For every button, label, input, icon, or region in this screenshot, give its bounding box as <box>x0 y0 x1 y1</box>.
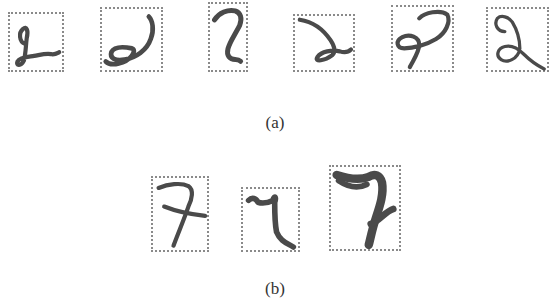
subfigure-a-caption: (a) <box>266 113 285 133</box>
digit-sample-b3 <box>329 165 401 251</box>
handwritten-digit-icon <box>295 16 353 70</box>
handwritten-digit-icon <box>153 178 207 250</box>
handwritten-digit-icon <box>243 189 298 250</box>
handwritten-digit-icon <box>331 167 399 249</box>
digit-sample-a2 <box>100 7 163 72</box>
digit-sample-a3 <box>208 2 248 72</box>
digit-sample-a5 <box>391 5 454 72</box>
digit-sample-a6 <box>486 7 549 72</box>
subfigure-b-caption: (b) <box>265 279 285 299</box>
handwritten-digit-icon <box>488 9 547 70</box>
handwritten-digit-icon <box>210 4 246 70</box>
handwritten-digit-icon <box>102 9 161 70</box>
digit-sample-a1 <box>8 12 64 72</box>
digit-sample-b1 <box>151 176 209 252</box>
handwritten-digit-icon <box>10 14 62 70</box>
handwritten-digit-icon <box>393 7 452 70</box>
digit-sample-a4 <box>293 14 355 72</box>
digit-sample-b2 <box>241 187 300 252</box>
